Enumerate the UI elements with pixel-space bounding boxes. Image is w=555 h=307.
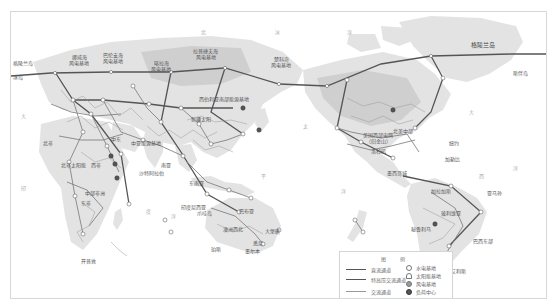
place-label-us-east: 纽约 [449,140,459,146]
legend-item-dc-corridor: 直流通道 [346,266,391,273]
place-label-north-sea: 挪威海 风电基地 [69,54,89,66]
place-label-north-africa: 北非 [43,140,53,146]
place-label-china-west: 新疆太阳 [191,116,211,122]
solar-base-icon [406,273,412,279]
ocean-label: 洋 [171,212,176,219]
place-label-brazil-east: 巴西东部 [473,238,493,244]
place-label-south-asia: 南亚 [161,162,171,168]
place-label-la: 洛杉矶 [371,148,386,154]
ocean-label: 大 [21,112,26,119]
legend-item-wind: 风电基地 [406,280,436,287]
legend-label: 太阳能基地 [416,272,441,279]
legend-item-ac: 交流通道 [346,288,391,295]
legend-label: 交流通道 [371,288,391,295]
place-label-peru: 秘鲁利马 [411,226,431,232]
place-label-east-siberia: 拉普捷夫海 风电基地 [193,48,218,60]
place-label-barents: 巴伦支海 风电基地 [103,52,123,64]
hydro-base-icon [406,265,412,271]
place-label-east-africa: 东非 [81,200,91,206]
ocean-label: 西 [479,172,484,179]
place-label-australia-south: 墨尔本 [245,248,260,254]
map-legend: 图 例 直流通道 特高压交流通道 交流通道 水电基地 太阳能基地 风电基地 负荷… [339,251,453,299]
ocean-label: 太 [303,122,308,129]
place-label-sahara: 北非太阳能 [61,162,86,168]
legend-label: 特高压交流通道 [371,276,406,283]
legend-item-load: 负荷中心 [406,288,436,295]
wind-base-icon [406,281,412,287]
ocean-label: 北 [201,28,206,35]
ocean-label: 大 [469,108,474,115]
legend-item-hydro: 水电基地 [406,264,436,271]
ocean-label: 冰 [275,28,280,35]
ac-line-swatch [346,291,366,292]
place-label-greenland-south: 斯伴岛 [513,70,528,76]
place-label-australia-se: 悉尼 [253,240,263,246]
place-label-siberia-south: 西伯利亚南部能源基地 [199,96,249,102]
place-label-southeast-asia: 东南亚 [189,180,204,186]
place-label-north-america-central: 北美中部 [393,128,413,134]
place-label-caribbean: 加勒比 [445,156,460,162]
world-map: 北 冰 洋 大 印 度 洋 太 平 洋 大 西 洋 格陵兰岛 斯伴岛 格陵兰岛 … [10,11,547,299]
place-label-saudi: 沙特阿拉伯 [139,170,164,176]
legend-label: 水电基地 [416,264,436,271]
ocean-label: 洋 [341,187,346,194]
place-label-papua: 巴布亚 [239,208,254,214]
place-label-australia-east: 大堡礁 [265,228,280,234]
ocean-label: 度 [146,207,151,214]
place-label-iceland: 冰岛 [13,74,23,80]
ocean-label: 印 [21,184,26,191]
legend-title: 图 例 [340,255,452,262]
legend-label: 风电基地 [416,280,436,287]
legend-label: 负荷中心 [416,288,436,295]
ocean-label: 平 [261,172,266,179]
place-label-java: 爪哇岛 [197,210,212,216]
place-label-mexico: 墨西哥城 [387,170,407,176]
dc-line-swatch [346,269,366,270]
place-label-bolivia: 玻利维亚 [441,210,461,216]
place-label-yamal: 喀拉海 风电基地 [151,60,171,72]
legend-label: 直流通道 [371,266,391,273]
place-label-australia-west: 珀斯 [211,246,221,252]
place-label-amazon: 亚马孙 [487,190,502,196]
load-center-icon [406,289,412,295]
ocean-label: 洋 [347,28,352,35]
ocean-label: 洋 [513,164,518,171]
place-label-central-asia: 中亚能源基地 [131,140,161,146]
map-canvas [11,12,546,298]
place-label-australia-center: 澳洲西北 [223,226,243,232]
place-label-venezuela: 加拉加斯 [431,188,451,194]
uhv-line-swatch [346,279,366,280]
legend-item-uhv-ac: 特高压交流通道 [346,276,406,283]
legend-item-solar: 太阳能基地 [406,272,441,279]
place-label-greenland-east: 格陵兰岛 [13,60,33,66]
place-label-north-america-west: 美国西部电网 （旧金山） [363,132,393,144]
place-label-central-africa: 中部非洲 [85,190,105,196]
place-label-chukotka: 楚科奇 风电基地 [271,56,291,68]
place-label-west-africa: 西非 [91,162,101,168]
place-label-middle-east: 中东 [111,136,121,142]
place-label-greenland: 格陵兰岛 [471,42,495,48]
place-label-cape-town: 开普敦 [81,258,96,264]
